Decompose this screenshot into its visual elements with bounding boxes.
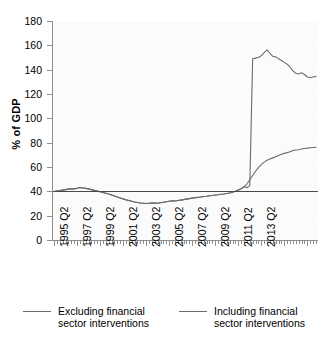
y-axis-tick-label: 180 — [0, 16, 42, 26]
x-axis-tick-minor — [120, 241, 121, 244]
y-axis-tick-label: 120 — [0, 89, 42, 99]
legend-item-including: Including financial sector interventions — [179, 305, 305, 329]
x-axis-tick-major — [238, 241, 239, 246]
y-axis-tick — [47, 143, 53, 144]
x-axis-tick-minor — [304, 241, 305, 244]
y-axis-tick-label: 0 — [0, 235, 42, 245]
x-axis-tick-label: 2005 Q2 — [173, 207, 185, 247]
x-axis-tick-major — [261, 241, 262, 246]
x-axis-tick-major — [307, 241, 308, 246]
series-line-excluding — [54, 147, 316, 203]
x-axis-tick-minor — [281, 241, 282, 244]
legend-swatch-icon — [179, 311, 207, 312]
x-axis-tick-minor — [94, 241, 95, 244]
y-axis-tick-label: 80 — [0, 138, 42, 148]
series-line-including — [54, 50, 316, 204]
x-axis-tick-major — [100, 241, 101, 246]
x-axis-tick-minor — [163, 241, 164, 244]
x-axis-tick-label: 1995 Q2 — [58, 207, 70, 247]
x-axis-tick-label: 2007 Q2 — [196, 207, 208, 247]
legend-swatch-icon — [23, 311, 51, 312]
x-axis-tick-label: 1997 Q2 — [81, 207, 93, 247]
x-axis-tick-major — [284, 241, 285, 246]
y-axis-tick-label: 20 — [0, 211, 42, 221]
x-axis-tick-minor — [140, 241, 141, 244]
x-axis-tick-major — [54, 241, 55, 246]
legend-label-including: Including financial sector interventions — [214, 305, 305, 329]
x-axis-tick-label: 2011 Q2 — [242, 207, 254, 247]
x-axis-tick-label: 1999 Q2 — [104, 207, 116, 247]
x-axis-tick-major — [192, 241, 193, 246]
x-axis-tick-minor — [316, 241, 317, 244]
legend-label-excluding: Excluding financial sector interventions — [58, 305, 149, 329]
y-axis-tick — [47, 167, 53, 168]
x-axis-tick-minor — [233, 241, 234, 244]
x-axis-tick-minor — [287, 241, 288, 244]
x-axis-tick-major — [169, 241, 170, 246]
x-axis-tick-minor — [302, 241, 303, 244]
chart-legend: Excluding financial sector interventions… — [0, 305, 328, 329]
y-axis-tick-label: 140 — [0, 65, 42, 75]
x-axis-tick-minor — [209, 241, 210, 244]
x-axis-tick-minor — [71, 241, 72, 244]
x-axis-tick-minor — [186, 241, 187, 244]
x-axis-tick-label: 2001 Q2 — [127, 207, 139, 247]
y-axis-tick — [47, 118, 53, 119]
x-axis-tick-major — [146, 241, 147, 246]
y-axis-tick-label: 160 — [0, 40, 42, 50]
x-axis-tick-minor — [212, 241, 213, 244]
x-axis-tick-minor — [74, 241, 75, 244]
x-axis-tick-minor — [279, 241, 280, 244]
chart-figure: % of GDP Excluding financial sector inte… — [0, 0, 328, 339]
y-axis-tick — [47, 70, 53, 71]
y-axis-tick — [47, 45, 53, 46]
reference-line-40 — [53, 191, 318, 192]
x-axis-tick-minor — [313, 241, 314, 244]
x-axis-tick-label: 2003 Q2 — [150, 207, 162, 247]
x-axis-tick-minor — [258, 241, 259, 244]
x-axis-tick-minor — [189, 241, 190, 244]
y-axis-tick-label: 60 — [0, 162, 42, 172]
x-axis-tick-minor — [143, 241, 144, 244]
y-axis-tick — [47, 21, 53, 22]
x-axis-tick-label: 2009 Q2 — [219, 207, 231, 247]
x-axis-tick-minor — [117, 241, 118, 244]
x-axis-tick-minor — [299, 241, 300, 244]
x-axis-tick-minor — [296, 241, 297, 244]
x-axis-tick-minor — [166, 241, 167, 244]
x-axis-tick-minor — [97, 241, 98, 244]
y-axis-tick — [47, 240, 53, 241]
x-axis-tick-major — [123, 241, 124, 246]
x-axis-tick-minor — [290, 241, 291, 244]
legend-item-excluding: Excluding financial sector interventions — [23, 305, 149, 329]
x-axis-tick-minor — [256, 241, 257, 244]
y-axis-tick-label: 40 — [0, 186, 42, 196]
x-axis-tick-label: 2013 Q2 — [265, 207, 277, 247]
x-axis-tick-minor — [310, 241, 311, 244]
x-axis-tick-major — [215, 241, 216, 246]
x-axis-tick-major — [77, 241, 78, 246]
x-axis-tick-minor — [235, 241, 236, 244]
y-axis-tick-label: 100 — [0, 113, 42, 123]
y-axis-tick — [47, 94, 53, 95]
x-axis-tick-minor — [293, 241, 294, 244]
y-axis-tick — [47, 216, 53, 217]
